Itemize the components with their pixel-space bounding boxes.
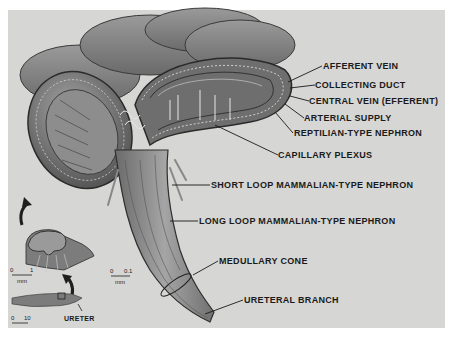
scale-bar-bottom-start: 0	[11, 315, 14, 322]
scale-bar-inset-start: 0	[10, 267, 13, 274]
scale-bar-main-end: 0.1	[124, 268, 132, 275]
label-central-vein: CENTRAL VEIN (EFFERENT)	[309, 96, 438, 106]
label-capillary-plexus: CAPILLARY PLEXUS	[278, 150, 372, 160]
label-afferent-vein: AFFERENT VEIN	[323, 61, 398, 71]
label-ureteral-branch: URETERAL BRANCH	[244, 295, 339, 305]
scale-bar-bottom-end: 10	[24, 315, 31, 322]
scale-bar-inset-unit: mm	[17, 278, 27, 285]
scale-bar-inset-end: 1	[30, 267, 33, 274]
inset-lobe-diagram	[26, 230, 94, 272]
label-reptilian-nephron: REPTILIAN-TYPE NEPHRON	[294, 128, 422, 138]
label-collecting-duct: COLLECTING DUCT	[315, 80, 406, 90]
arrow-up-icon	[21, 197, 32, 225]
label-short-loop-nephron: SHORT LOOP MAMMALIAN-TYPE NEPHRON	[211, 180, 413, 190]
scale-bar-main-unit: mm	[115, 279, 125, 286]
label-arterial-supply: ARTERIAL SUPPLY	[304, 113, 392, 123]
label-long-loop-nephron: LONG LOOP MAMMALIAN-TYPE NEPHRON	[199, 216, 395, 226]
label-ureter: URETER	[64, 314, 95, 324]
scale-bar-main-start: 0	[110, 268, 113, 275]
kidney-lobe-illustration	[0, 0, 455, 338]
label-medullary-cone: MEDULLARY CONE	[219, 256, 308, 266]
inset-ureter-diagram	[12, 293, 82, 311]
